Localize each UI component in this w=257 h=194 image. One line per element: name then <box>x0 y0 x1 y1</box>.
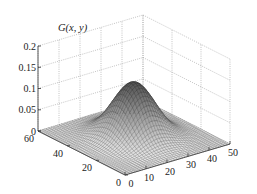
tick-label: 30 <box>186 159 196 170</box>
tick-label: 50 <box>228 147 238 158</box>
tick-label: 20 <box>82 162 92 173</box>
tick-label: 0.1 <box>24 83 37 94</box>
tick-label: 20 <box>165 166 175 177</box>
tick-label: 0.15 <box>19 62 37 73</box>
tick-label: 0.05 <box>19 104 37 115</box>
tick-label: 60 <box>24 133 34 144</box>
tick-label: 0 <box>129 178 134 189</box>
z-axis-label: G(x, y) <box>58 22 88 34</box>
surface-plot: 00.050.10.150.2010203040500204060 G(x, y… <box>0 0 257 194</box>
tick-label: 0 <box>116 177 121 188</box>
tick-label: 10 <box>144 172 154 183</box>
tick-label: 0.2 <box>24 41 37 52</box>
tick-label: 40 <box>53 148 63 159</box>
tick-label: 40 <box>207 153 217 164</box>
